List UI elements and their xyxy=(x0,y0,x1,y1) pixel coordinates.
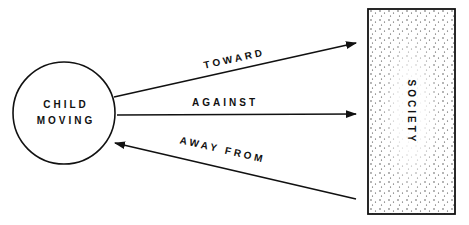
society-label: SOCIETY xyxy=(406,80,417,145)
arrow-away-from: AWAY FROM xyxy=(115,134,356,199)
arrow-toward: TOWARD xyxy=(114,43,356,97)
arrow-toward-label: TOWARD xyxy=(203,46,266,70)
child-label-line1: CHILD xyxy=(43,99,89,110)
arrow-against-label: AGAINST xyxy=(192,97,258,108)
movement-diagram: CHILD MOVING SOCIETY TOWARD AGAINST AWAY… xyxy=(0,0,469,225)
arrow-against: AGAINST xyxy=(117,97,356,115)
child-node: CHILD MOVING xyxy=(13,62,115,164)
society-node: SOCIETY xyxy=(368,9,455,214)
child-label-line2: MOVING xyxy=(37,115,96,126)
